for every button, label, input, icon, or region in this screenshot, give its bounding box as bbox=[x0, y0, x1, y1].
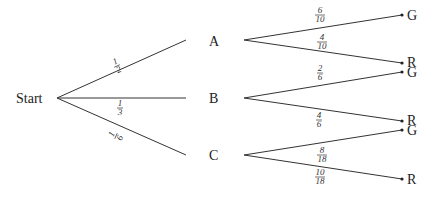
branch-b-r bbox=[244, 98, 402, 121]
prob-c-r: 10 18 bbox=[315, 167, 325, 186]
endpoint-dot bbox=[400, 70, 403, 73]
node-c: C bbox=[209, 148, 218, 163]
prob-start-c: 1 6 bbox=[106, 129, 126, 142]
svg-text:6: 6 bbox=[114, 133, 125, 142]
endpoint-dot bbox=[400, 13, 403, 16]
prob-a-g: 6 10 bbox=[315, 5, 325, 24]
prob-c-g: 8 18 bbox=[317, 145, 327, 164]
outcome-a-g: G bbox=[407, 8, 417, 23]
outcome-b-g: G bbox=[407, 65, 417, 80]
prob-b-r: 4 6 bbox=[316, 110, 322, 129]
endpoint-dot bbox=[400, 61, 403, 64]
outcome-c-r: R bbox=[407, 172, 417, 187]
svg-text:6: 6 bbox=[318, 72, 323, 82]
svg-text:2: 2 bbox=[115, 64, 124, 75]
endpoint-dot bbox=[400, 177, 403, 180]
node-a: A bbox=[209, 34, 220, 49]
endpoint-dot bbox=[400, 128, 403, 131]
prob-b-g: 2 6 bbox=[317, 63, 323, 82]
node-b: B bbox=[209, 91, 218, 106]
node-start: Start bbox=[16, 91, 43, 106]
prob-start-b: 1 3 bbox=[117, 98, 123, 117]
prob-start-a: 1 2 bbox=[110, 56, 123, 76]
svg-text:10: 10 bbox=[318, 41, 328, 51]
probability-tree: Start 1 2 1 3 1 6 A B C G R G R G R 6 bbox=[0, 0, 434, 200]
outcome-c-g: G bbox=[407, 123, 417, 138]
branch-start-a bbox=[57, 40, 186, 98]
svg-text:3: 3 bbox=[117, 107, 123, 117]
svg-text:6: 6 bbox=[317, 119, 322, 129]
endpoint-dot bbox=[400, 119, 403, 122]
prob-a-r: 4 10 bbox=[317, 32, 327, 51]
branch-b-g bbox=[244, 72, 402, 98]
svg-text:18: 18 bbox=[316, 176, 326, 186]
svg-text:10: 10 bbox=[316, 14, 326, 24]
svg-text:18: 18 bbox=[318, 154, 328, 164]
